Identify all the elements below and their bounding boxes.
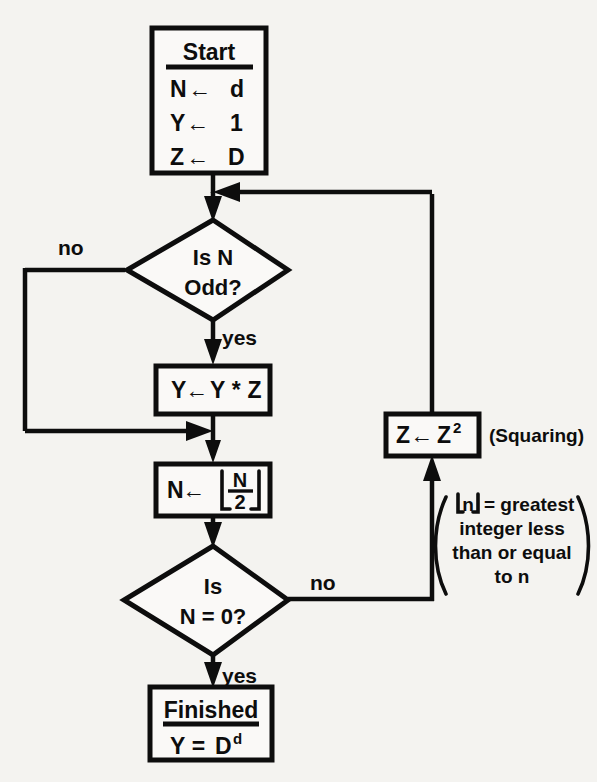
arrowhead-into-square xyxy=(423,455,441,481)
start-line1-arrow-icon: ← xyxy=(188,76,211,102)
annotation-line3: than or equal xyxy=(452,542,571,563)
multiply-right: Y * Z xyxy=(210,377,262,403)
decision-odd-line1: Is N xyxy=(193,245,233,270)
start-line2-right: 1 xyxy=(230,110,243,136)
halve-arrow-icon: ← xyxy=(182,477,205,503)
node-decision-zero xyxy=(124,546,288,655)
annotation-line4: to n xyxy=(495,566,530,587)
arrowhead-odd-no-return xyxy=(186,421,213,441)
start-line3-arrow-icon: ← xyxy=(186,144,209,170)
halve-denominator: 2 xyxy=(234,491,245,513)
annotation-variable: n xyxy=(462,494,474,515)
square-caption: (Squaring) xyxy=(489,425,584,446)
decision-odd-line2: Odd? xyxy=(184,275,241,300)
annotation-line2: integer less xyxy=(459,518,565,539)
arrowhead-into-finished xyxy=(204,662,222,688)
square-exponent: 2 xyxy=(453,419,461,436)
square-arrow-icon: ← xyxy=(410,422,433,448)
start-line1-left: N xyxy=(170,76,187,102)
decision-odd-no-label: no xyxy=(58,236,84,259)
finished-expr-base: D xyxy=(215,733,232,759)
start-line3-right: D xyxy=(228,144,245,170)
finished-expr-exponent: d xyxy=(233,730,242,747)
multiply-arrow-icon: ← xyxy=(185,377,208,403)
flowchart-svg: Start N ← d Y ← 1 Z ← D Is N Odd? yes no… xyxy=(0,0,597,782)
halve-numerator: N xyxy=(233,469,247,491)
decision-zero-yes-label: yes xyxy=(222,664,257,687)
decision-zero-no-label: no xyxy=(310,571,336,594)
decision-zero-line1: Is xyxy=(204,574,222,599)
decision-odd-yes-label: yes xyxy=(222,326,257,349)
square-base: Z xyxy=(437,422,451,448)
start-header: Start xyxy=(183,39,236,65)
start-line3-left: Z xyxy=(170,144,184,170)
decision-zero-line2: N = 0? xyxy=(180,604,247,629)
arrowhead-into-halve xyxy=(205,440,221,463)
flowchart-canvas: Start N ← d Y ← 1 Z ← D Is N Odd? yes no… xyxy=(0,0,597,782)
annotation-line1-tail: = greatest xyxy=(484,494,575,515)
square-left: Z xyxy=(396,422,410,448)
finished-header: Finished xyxy=(164,697,259,723)
start-line2-left: Y xyxy=(170,110,186,136)
arrowhead-into-multiply xyxy=(204,339,222,365)
node-decision-odd xyxy=(127,220,288,320)
finished-expr-left: Y = xyxy=(170,733,205,759)
start-line1-right: d xyxy=(230,76,244,102)
start-line2-arrow-icon: ← xyxy=(186,110,209,136)
